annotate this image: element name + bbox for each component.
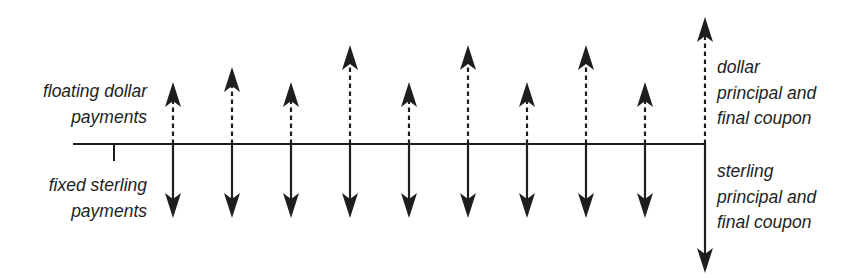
sterling-principal-arrow [697, 144, 713, 273]
fixed-sterling-payment-arrow [165, 144, 181, 218]
fixed-sterling-payment-arrows [165, 144, 653, 218]
currency-swap-cash-flow-diagram [0, 0, 856, 278]
fixed-sterling-payment-arrow [578, 144, 594, 218]
label-line: final coupon [717, 210, 816, 236]
fixed-sterling-payment-arrow [519, 144, 535, 218]
timeline [73, 144, 705, 161]
dollar-principal-final-coupon-label: dollar principal and final coupon [717, 55, 816, 132]
arrowhead-up-icon [460, 45, 476, 70]
floating-dollar-payment-arrow [224, 67, 240, 144]
label-line: final coupon [717, 106, 816, 132]
fixed-sterling-payment-arrow [637, 144, 653, 218]
label-line: principal and [717, 185, 816, 211]
label-line: payments [49, 199, 147, 225]
floating-dollar-payment-arrow [342, 45, 358, 144]
floating-dollar-payment-arrow [578, 45, 594, 144]
dollar-principal-arrow [697, 17, 713, 144]
floating-dollar-payment-arrow [283, 82, 299, 144]
floating-dollar-payment-arrow [165, 82, 181, 144]
label-line: principal and [717, 81, 816, 107]
fixed-sterling-payment-arrow [342, 144, 358, 218]
floating-dollar-payments-label: floating dollar payments [43, 79, 147, 130]
label-line: floating dollar [43, 79, 147, 105]
label-line: fixed sterling [49, 173, 147, 199]
floating-dollar-payment-arrow [460, 45, 476, 144]
fixed-sterling-payment-arrow [224, 144, 240, 218]
sterling-principal-final-coupon-label: sterling principal and final coupon [717, 159, 816, 236]
floating-dollar-payment-arrow [519, 82, 535, 144]
arrowhead-up-icon [578, 45, 594, 70]
arrowhead-up-icon [342, 45, 358, 70]
fixed-sterling-payment-arrow [460, 144, 476, 218]
fixed-sterling-payments-label: fixed sterling payments [49, 173, 147, 224]
floating-dollar-payment-arrows [165, 45, 653, 144]
floating-dollar-payment-arrow [637, 82, 653, 144]
label-line: dollar [717, 55, 816, 81]
fixed-sterling-payment-arrow [401, 144, 417, 218]
arrowhead-up-icon [224, 67, 240, 92]
fixed-sterling-payment-arrow [283, 144, 299, 218]
label-line: payments [43, 105, 147, 131]
floating-dollar-payment-arrow [401, 82, 417, 144]
label-line: sterling [717, 159, 816, 185]
